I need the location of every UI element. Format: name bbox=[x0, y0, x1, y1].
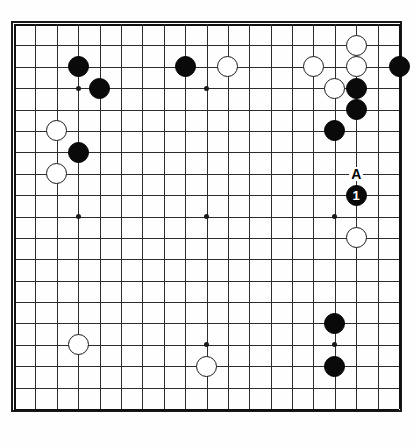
point-label-a: A bbox=[349, 167, 363, 181]
stone-white[interactable] bbox=[217, 56, 238, 77]
stone-black[interactable] bbox=[324, 313, 345, 334]
stone-white[interactable] bbox=[196, 356, 217, 377]
star-point bbox=[76, 214, 81, 219]
grid-line-vertical bbox=[164, 24, 165, 409]
stone-black[interactable] bbox=[324, 120, 345, 141]
stone-white[interactable] bbox=[46, 120, 67, 141]
stone-white[interactable] bbox=[346, 56, 367, 77]
grid-line-vertical bbox=[271, 24, 272, 409]
grid-line-vertical bbox=[228, 24, 229, 409]
stone-white[interactable] bbox=[324, 78, 345, 99]
stone-move-number: 1 bbox=[347, 189, 366, 202]
grid-line-vertical bbox=[399, 24, 401, 409]
stone-black[interactable] bbox=[389, 56, 410, 77]
stone-white[interactable] bbox=[303, 56, 324, 77]
stone-black[interactable] bbox=[346, 78, 367, 99]
grid-line-vertical bbox=[313, 24, 314, 409]
star-point bbox=[332, 342, 337, 347]
grid-line-vertical bbox=[185, 24, 186, 409]
grid-line-horizontal bbox=[14, 409, 399, 411]
grid-line-vertical bbox=[121, 24, 122, 409]
grid-line-vertical bbox=[142, 24, 143, 409]
stone-white[interactable] bbox=[68, 334, 89, 355]
stone-black[interactable] bbox=[324, 356, 345, 377]
grid-line-vertical bbox=[378, 24, 379, 409]
go-diagram: 1 A bbox=[0, 0, 418, 445]
stone-black[interactable] bbox=[175, 56, 196, 77]
grid-line-vertical bbox=[292, 24, 293, 409]
grid-line-vertical bbox=[35, 24, 36, 409]
star-point bbox=[204, 342, 209, 347]
star-point bbox=[332, 214, 337, 219]
grid-line-vertical bbox=[14, 24, 16, 409]
goban-grid[interactable]: 1 A bbox=[14, 24, 399, 409]
grid-line-vertical bbox=[57, 24, 58, 409]
stone-white[interactable] bbox=[346, 35, 367, 56]
stone-black[interactable] bbox=[68, 142, 89, 163]
stone-white[interactable] bbox=[346, 227, 367, 248]
stone-black-numbered[interactable]: 1 bbox=[346, 185, 367, 206]
star-point bbox=[204, 214, 209, 219]
star-point bbox=[204, 86, 209, 91]
star-point bbox=[76, 86, 81, 91]
stone-black[interactable] bbox=[89, 78, 110, 99]
stone-white[interactable] bbox=[46, 163, 67, 184]
grid-line-vertical bbox=[249, 24, 250, 409]
stone-black[interactable] bbox=[346, 99, 367, 120]
stone-black[interactable] bbox=[68, 56, 89, 77]
